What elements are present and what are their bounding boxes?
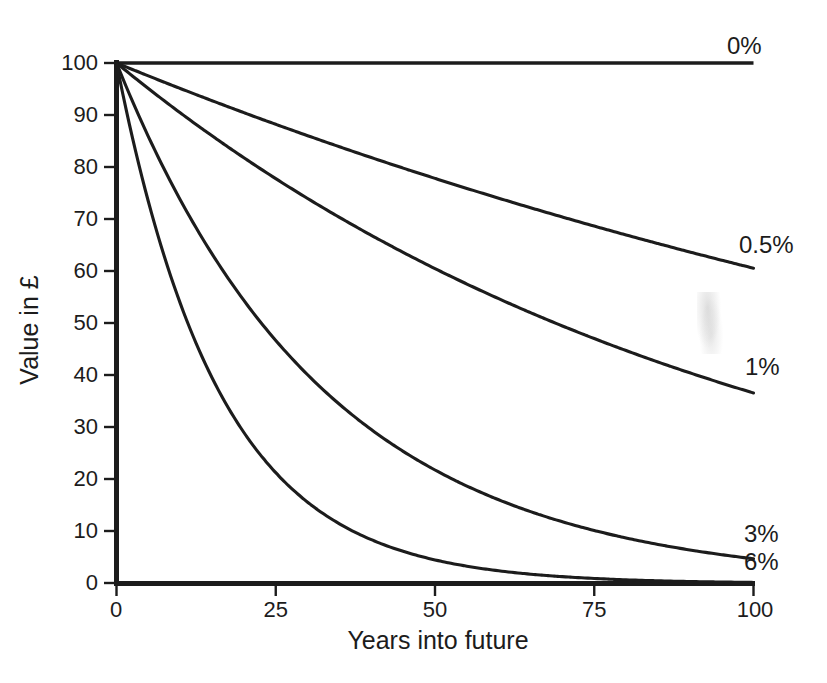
series-label-3pct: 3% <box>744 520 779 547</box>
y-tick-label-60: 60 <box>74 258 98 283</box>
series-label-0pct: 0% <box>727 32 762 59</box>
y-tick-label-70: 70 <box>74 206 98 231</box>
chart-container: 0 10 20 30 40 50 60 70 80 90 100 0 25 50… <box>0 0 827 683</box>
series-line-0_5pct <box>117 63 754 268</box>
axes-group <box>114 60 755 585</box>
x-tick-label-0: 0 <box>110 597 122 622</box>
x-tick-label-100: 100 <box>737 597 774 622</box>
y-tick-label-80: 80 <box>74 154 98 179</box>
y-axis-title: Value in £ <box>15 275 43 384</box>
y-tick-label-30: 30 <box>74 414 98 439</box>
series-label-6pct: 6% <box>744 548 779 575</box>
x-axis-title: Years into future <box>347 626 528 654</box>
y-tick-label-100: 100 <box>61 50 98 75</box>
y-tick-label-40: 40 <box>74 362 98 387</box>
x-tick-label-75: 75 <box>582 597 606 622</box>
x-tick-labels: 0 25 50 75 100 <box>110 597 773 622</box>
series-line-6pct <box>117 63 754 582</box>
y-tick-label-0: 0 <box>86 570 98 595</box>
series-curves <box>117 63 754 582</box>
x-tick-label-50: 50 <box>423 597 447 622</box>
y-tick-label-50: 50 <box>74 310 98 335</box>
decay-line-chart: 0 10 20 30 40 50 60 70 80 90 100 0 25 50… <box>0 0 827 683</box>
series-end-labels: 0% 0.5% 1% 3% 6% <box>727 32 794 575</box>
y-tick-label-10: 10 <box>74 518 98 543</box>
series-label-1pct: 1% <box>745 353 780 380</box>
series-line-1pct <box>117 63 754 393</box>
x-tick-label-25: 25 <box>264 597 288 622</box>
y-tick-label-90: 90 <box>74 102 98 127</box>
series-label-0_5pct: 0.5% <box>739 231 794 258</box>
y-tick-label-20: 20 <box>74 466 98 491</box>
y-tick-labels: 0 10 20 30 40 50 60 70 80 90 100 <box>61 50 98 595</box>
